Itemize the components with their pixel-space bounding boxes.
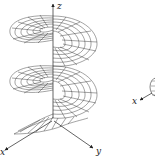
y-axis <box>54 121 93 148</box>
helicoid-diagram: z x y x <box>0 0 155 156</box>
y-axis-label: y <box>95 146 102 156</box>
side-figure: x <box>132 78 155 106</box>
z-axis-label: z <box>56 1 62 11</box>
x-axis-label: x <box>0 147 5 156</box>
side-x-axis-label: x <box>132 96 137 106</box>
partial-sphere <box>150 78 155 96</box>
side-x-axis <box>140 93 152 100</box>
helicoid-surface <box>10 15 97 134</box>
